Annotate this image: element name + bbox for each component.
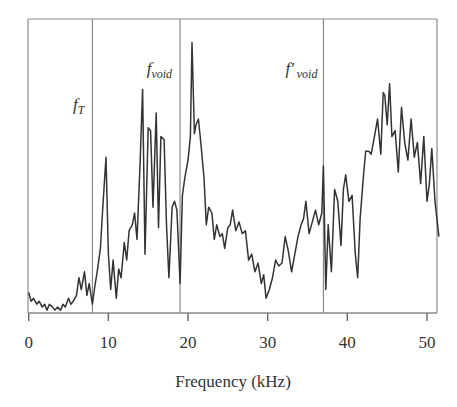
x-axis-title: Frequency (kHz): [175, 372, 291, 391]
plot-frame: [28, 19, 437, 313]
x-tick-label: 40: [339, 333, 356, 352]
frequency-marker-labels: fTfvoidf' void: [73, 59, 318, 117]
x-tick-label: 0: [24, 333, 33, 352]
x-tick-label: 30: [259, 333, 276, 352]
x-tick-label: 10: [100, 333, 117, 352]
marker-label-t: fT: [73, 95, 86, 117]
marker-label-void-prime: f' void: [285, 59, 318, 81]
marker-label-void: fvoid: [147, 59, 173, 81]
spectrum-line: [29, 43, 439, 311]
x-tick-label: 20: [180, 333, 197, 352]
spectrum-chart: 01020304050 fTfvoidf' void Frequency (kH…: [0, 0, 457, 407]
x-axis-ticks: 01020304050: [24, 313, 435, 352]
x-tick-label: 50: [419, 333, 436, 352]
